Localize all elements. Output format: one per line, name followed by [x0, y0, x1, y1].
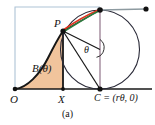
label-center-c: C = (rθ, 0) [94, 93, 138, 103]
point-dot-X [61, 87, 65, 91]
arc-red [64, 10, 100, 30]
point-dot-C [97, 86, 102, 91]
tangent-line [100, 9, 146, 10]
label-foot-x: X [58, 94, 65, 105]
label-region-b: B(θ) [32, 63, 51, 74]
label-origin-o: O [10, 94, 18, 105]
arc-green [64, 11, 100, 32]
figure-canvas [0, 0, 155, 125]
label-point-p: P [54, 18, 61, 29]
point-dot-E [143, 6, 148, 11]
point-dot-O [13, 87, 18, 92]
cycloid-figure: P θ B(θ) O X C = (rθ, 0) (a) [0, 0, 155, 125]
figure-caption: (a) [62, 109, 73, 119]
label-angle-theta: θ [84, 45, 89, 55]
point-dot-T [97, 7, 103, 13]
point-dot-P [60, 28, 65, 33]
region-b-theta-fill [15, 31, 63, 89]
